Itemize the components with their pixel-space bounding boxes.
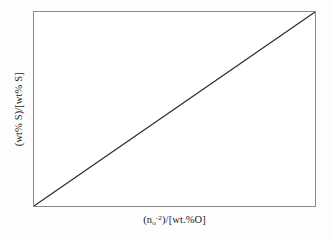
plot-area — [33, 11, 316, 207]
y-axis-label-numerator: (wt% S) — [13, 111, 24, 146]
y-axis-label-denominator: [wt% S] — [13, 73, 24, 108]
plot-canvas — [34, 12, 315, 206]
x-axis-label-container: (no-2)/[wt.%O] — [33, 209, 316, 233]
x-axis-label-denominator: [wt.%O] — [169, 214, 206, 225]
y-axis-label-container: (wt% S)/[wt% S] — [8, 11, 30, 208]
y-axis-label: (wt% S)/[wt% S] — [14, 73, 25, 147]
chart-figure: (wt% S)/[wt% S] (no-2)/[wt.%O] — [0, 0, 333, 239]
y-axis-label-divider: / — [13, 108, 24, 111]
x-axis-label: (no-2)/[wt.%O] — [143, 215, 206, 227]
data-series-line — [34, 12, 315, 206]
